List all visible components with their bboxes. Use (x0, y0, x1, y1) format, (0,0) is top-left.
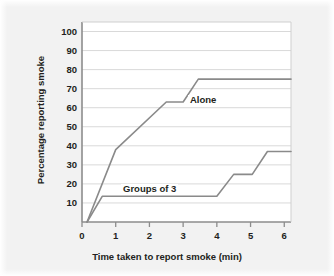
chart-page: 102030405060708090100 0123456 Time taken… (0, 0, 334, 276)
y-axis-title: Percentage reporting smoke (36, 25, 46, 215)
series-label-groups-of-3: Groups of 3 (121, 184, 178, 194)
chart-figure: 102030405060708090100 0123456 Time taken… (0, 0, 334, 276)
series-label-alone: Alone (188, 95, 218, 105)
plot-area-background (82, 22, 291, 222)
y-axis-tick-label: 70 (52, 84, 77, 94)
y-axis-tick-label: 40 (52, 141, 77, 151)
x-axis-tick-label: 0 (79, 231, 84, 241)
x-axis-tick-label: 1 (113, 231, 118, 241)
x-axis-tick-label: 6 (282, 231, 287, 241)
y-axis-tick-label: 20 (52, 179, 77, 189)
x-axis-title: Time taken to report smoke (min) (0, 252, 334, 262)
y-axis-tick-label: 10 (52, 198, 77, 208)
y-axis-tick-label: 60 (52, 103, 77, 113)
y-axis-tick-label: 100 (52, 27, 77, 37)
y-axis-tick-label: 50 (52, 122, 77, 132)
y-axis-tick-label: 30 (52, 160, 77, 170)
y-axis-tick-label: 80 (52, 65, 77, 75)
x-axis-tick-label: 5 (248, 231, 253, 241)
x-axis-tick-label: 4 (214, 231, 219, 241)
y-axis-tick-label: 90 (52, 46, 77, 56)
x-axis-tick-label: 2 (147, 231, 152, 241)
x-axis-tick-label: 3 (180, 231, 185, 241)
